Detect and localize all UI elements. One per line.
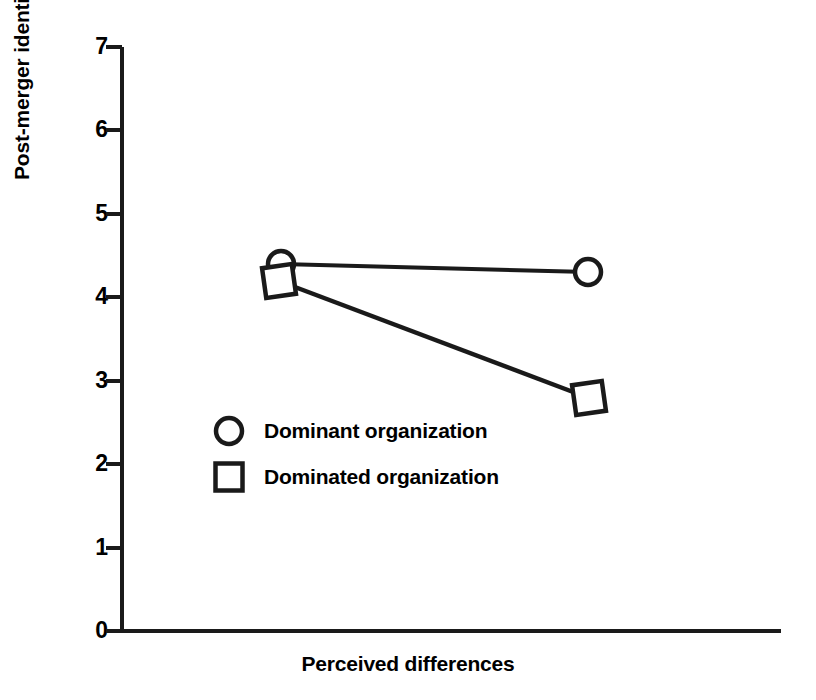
chart-figure: Post-merger identification 7 6 5 4 3 2 1… [0,0,816,700]
series-line-dominant [281,264,588,272]
series-line-dominated [279,281,589,398]
legend-label-dominated: Dominated organization [264,465,499,489]
legend-entry-dominated: Dominated organization [212,454,632,500]
legend-label-dominant: Dominant organization [264,419,487,443]
open-square-icon [212,460,246,494]
data-point-dominant-2 [575,259,601,285]
data-point-dominated-1 [262,264,296,298]
plot-canvas [0,0,816,700]
x-axis-title: Perceived differences [0,652,816,676]
chart-legend: Dominant organization Dominated organiza… [212,408,632,500]
open-circle-icon [212,414,246,448]
legend-entry-dominant: Dominant organization [212,408,632,454]
